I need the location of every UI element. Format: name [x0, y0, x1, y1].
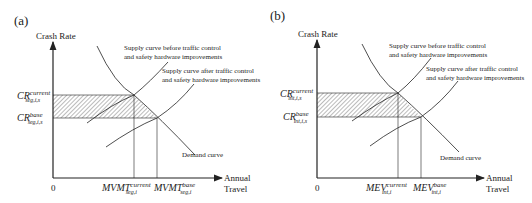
x-current-label: MVMTcurrentseg,i — [101, 181, 152, 195]
x-axis-label-line1: Annual — [486, 173, 513, 183]
diagram-canvas: (a) Crash Rate Supply curve before traff… — [0, 0, 532, 203]
supply-before-label-line2: and safety hardware improvements — [124, 53, 222, 61]
cr-current-label: CRcurrentseg,i,s — [17, 89, 51, 103]
x-current-label: MEVcurrentint,i — [365, 181, 408, 195]
y-axis-label: Crash Rate — [36, 31, 76, 41]
supply-after-label-line1: Supply curve after traffic control — [426, 65, 518, 73]
panel-label: (a) — [14, 13, 28, 28]
panel-a: (a) Crash Rate Supply curve before traff… — [14, 13, 260, 195]
cr-current-label: CRcurrentint,i,s — [280, 87, 314, 101]
y-axis-label: Crash Rate — [298, 29, 338, 39]
hatched-area — [317, 93, 421, 117]
x-base-label: MEVbaseint,i — [412, 181, 446, 195]
x-axis-label-line1: Annual — [224, 173, 251, 183]
demand-curve-label: Demand curve — [440, 154, 481, 162]
supply-before-label-line1: Supply curve before traffic control — [389, 42, 486, 50]
panel-b: (b) Crash Rate Supply curve before traff… — [270, 8, 524, 195]
origin-label: 0 — [51, 183, 56, 193]
hatched-area — [53, 95, 157, 118]
supply-before-label-line1: Supply curve before traffic control — [124, 44, 221, 52]
x-axis-label-line2: Travel — [486, 184, 510, 194]
cr-base-label: CRbaseseg,i,s — [17, 111, 43, 125]
supply-after-label-line2: and safety hardware improvements — [162, 76, 260, 84]
x-base-label: MVMTbaseseg,i — [153, 181, 195, 195]
supply-before-label-line2: and safety hardware improvements — [389, 51, 487, 59]
x-axis-label-line2: Travel — [224, 184, 248, 194]
demand-curve-label: Demand curve — [182, 151, 223, 159]
supply-after-label-line1: Supply curve after traffic control — [162, 67, 254, 75]
cr-base-label: CRbaseint,i,s — [283, 110, 309, 124]
panel-label: (b) — [270, 8, 285, 23]
supply-after-label-line2: and safety hardware improvements — [426, 74, 524, 82]
origin-label: 0 — [315, 183, 320, 193]
